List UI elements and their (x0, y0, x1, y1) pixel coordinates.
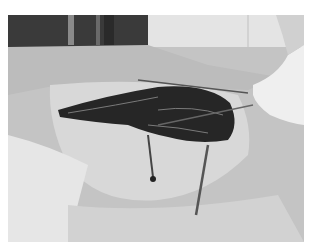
dark-background (8, 15, 148, 47)
photo-canvas (8, 15, 304, 242)
surgical-photo (8, 15, 304, 242)
